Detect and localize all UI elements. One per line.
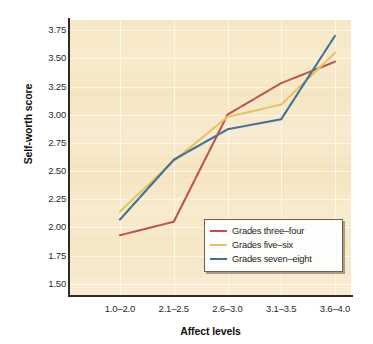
y-axis-tick-label: 2.25 bbox=[34, 194, 66, 204]
y-axis-tick-label: 2.00 bbox=[34, 222, 66, 232]
legend-label: Grades five–six bbox=[232, 240, 293, 250]
y-axis-tick-label: 2.75 bbox=[34, 138, 66, 148]
legend-label: Grades seven–eight bbox=[232, 254, 312, 264]
series-line bbox=[120, 36, 335, 220]
chart-legend: Grades three–fourGrades five–sixGrades s… bbox=[204, 219, 343, 272]
legend-label: Grades three–four bbox=[232, 226, 304, 236]
x-axis-tick-label: 3.6–4.0 bbox=[307, 303, 363, 314]
legend-item: Grades seven–eight bbox=[210, 252, 337, 266]
series-line bbox=[120, 53, 335, 212]
x-axis-title: Affect levels bbox=[70, 325, 351, 337]
x-axis-tick-label: 3.1–3.5 bbox=[253, 303, 309, 314]
y-axis-tick-label: 2.50 bbox=[34, 166, 66, 176]
x-axis-tick-label: 2.6–3.0 bbox=[200, 303, 256, 314]
y-axis-tick-label: 3.25 bbox=[34, 82, 66, 92]
x-axis-line bbox=[68, 295, 353, 297]
y-axis-tick-label: 1.50 bbox=[34, 279, 66, 289]
x-axis-tick-label: 2.1–2.5 bbox=[146, 303, 202, 314]
legend-item: Grades five–six bbox=[210, 238, 337, 252]
legend-color-swatch bbox=[210, 244, 227, 247]
chart-figure: Self-worth score 3.753.503.253.002.752.5… bbox=[0, 0, 373, 344]
y-axis-tick-label: 3.75 bbox=[34, 25, 66, 35]
legend-color-swatch bbox=[210, 258, 227, 261]
y-axis-tick-label: 3.50 bbox=[34, 53, 66, 63]
legend-item: Grades three–four bbox=[210, 224, 337, 238]
y-axis-tick-label: 1.75 bbox=[34, 251, 66, 261]
y-axis-tick-labels: 3.753.503.253.002.752.502.252.001.751.50 bbox=[30, 0, 66, 344]
legend-color-swatch bbox=[210, 230, 227, 233]
y-axis-tick-label: 3.00 bbox=[34, 110, 66, 120]
x-axis-tick-label: 1.0–2.0 bbox=[92, 303, 148, 314]
y-axis-line bbox=[68, 18, 70, 297]
